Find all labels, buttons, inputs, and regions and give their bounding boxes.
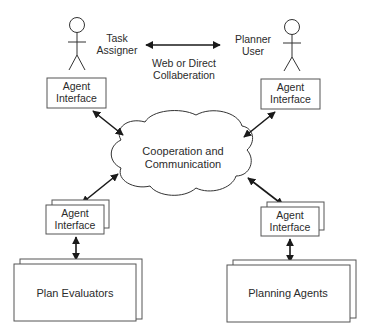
arrow-top-left-interface-cloud (93, 111, 123, 135)
arrow-bottom-right-interface-cloud (248, 178, 283, 205)
collaboration-label-line1: Web or Direct (152, 57, 216, 69)
diagram-canvas: Task Assigner Planner User Web or Direct… (0, 0, 370, 324)
agent-interface-label-line1: Agent (61, 207, 89, 219)
planner-user-stick-figure-icon (283, 20, 301, 72)
cloud-label-line1: Cooperation and (142, 145, 223, 157)
collaboration-label-line2: Collaberation (153, 69, 215, 81)
arrow-top-right-interface-cloud (244, 112, 275, 137)
task-assigner-stick-figure-icon (68, 18, 86, 71)
task-assigner-label-line1: Task (106, 32, 128, 44)
agent-interface-label-line1: Agent (276, 209, 304, 221)
plan-evaluators-label: Plan Evaluators (36, 287, 114, 299)
agent-interface-stack-bottom-left: Agent Interface (46, 200, 109, 234)
task-assigner-label-line2: Assigner (97, 44, 138, 56)
plan-evaluators-stack: Plan Evaluators (14, 259, 142, 321)
planning-agents-label: Planning Agents (248, 287, 328, 299)
cloud-label-line2: Communication (145, 158, 221, 170)
planning-agents-stack: Planning Agents (227, 260, 356, 322)
agent-interface-label-line2: Interface (56, 92, 97, 104)
agent-interface-label-line1: Agent (277, 81, 305, 93)
agent-interface-box-top-right: Agent Interface (261, 79, 320, 109)
agent-interface-label-line2: Interface (270, 221, 311, 233)
agent-interface-label-line1: Agent (63, 80, 91, 92)
agent-interface-box-top-left: Agent Interface (47, 78, 106, 108)
agent-interface-stack-bottom-right: Agent Interface (261, 202, 324, 236)
planner-user-label-line2: User (242, 45, 265, 57)
arrow-bottom-left-interface-cloud (82, 174, 118, 203)
planner-user-label-line1: Planner (235, 33, 272, 45)
agent-interface-label-line2: Interface (270, 93, 311, 105)
agent-interface-label-line2: Interface (55, 219, 96, 231)
